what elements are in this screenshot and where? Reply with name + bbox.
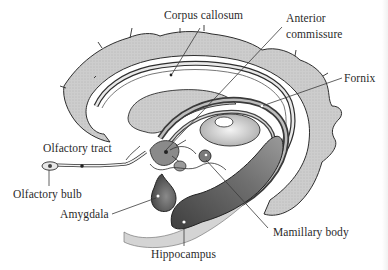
label-fornix: Fornix xyxy=(344,72,375,85)
label-corpus-callosum: Corpus callosum xyxy=(164,9,243,22)
septal-region xyxy=(150,140,226,171)
label-anterior-commissure-line1: Anterior xyxy=(286,12,343,25)
cingulate-cortex xyxy=(60,25,342,215)
label-olfactory-bulb: Olfactory bulb xyxy=(13,188,82,201)
label-amygdala: Amygdala xyxy=(60,208,109,221)
label-mamillary-body: Mamillary body xyxy=(273,226,349,239)
mamillary-body-structure xyxy=(199,150,211,162)
page-edge-shadow xyxy=(382,0,388,270)
leader-amygdala xyxy=(112,198,156,214)
label-anterior-commissure: Anterior commissure xyxy=(286,12,343,41)
label-olfactory-tract: Olfactory tract xyxy=(43,142,112,155)
label-anterior-commissure-line2: commissure xyxy=(286,28,343,41)
inner-nucleus xyxy=(200,114,260,146)
amygdala-structure xyxy=(151,174,176,212)
label-hippocampus: Hippocampus xyxy=(151,248,216,261)
